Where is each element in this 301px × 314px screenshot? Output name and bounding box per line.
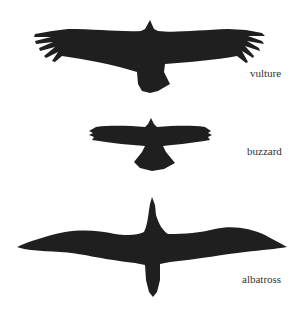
buzzard-body [89,118,212,171]
vulture-silhouette [34,20,265,93]
vulture-body [34,20,265,93]
bird-silhouettes-figure [0,0,301,314]
buzzard-label: buzzard [247,145,282,157]
albatross-label: albatross [242,273,281,285]
buzzard-silhouette [89,118,212,171]
vulture-label: vulture [250,67,281,79]
